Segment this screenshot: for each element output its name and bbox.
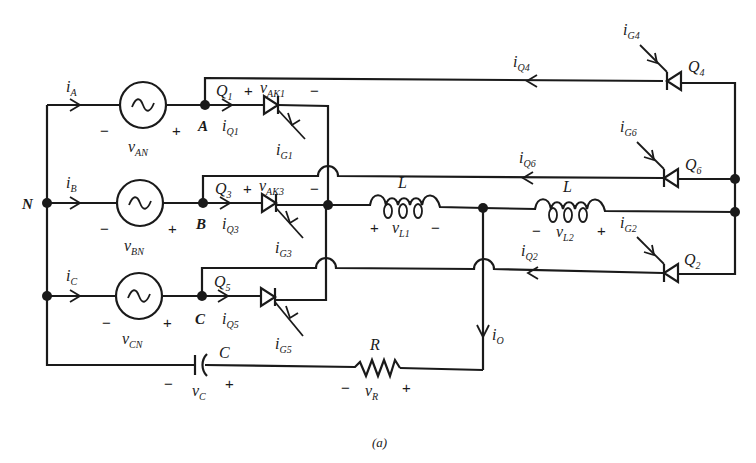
thyristor-Q5-label: Q5 — [214, 273, 231, 293]
capacitor-C-label: C — [219, 344, 230, 361]
node-A-label: A — [197, 118, 208, 134]
source-vBN-minus: − — [100, 220, 109, 237]
source-vAN — [120, 82, 204, 128]
vAK3-plus: + — [243, 180, 252, 197]
gate-lead — [640, 45, 667, 72]
thyristor-Q5 — [202, 205, 326, 336]
gate-current-iG3-label: iG3 — [275, 239, 292, 259]
source-vCN — [116, 273, 202, 319]
resistor-minus: − — [341, 379, 350, 396]
source-vAN-label: vAN — [128, 138, 149, 158]
vAK1-plus: + — [244, 82, 253, 99]
gate-lead — [637, 237, 664, 264]
inductor-L2-voltage: vL2 — [556, 223, 574, 243]
inductor-L2 — [483, 199, 735, 222]
current-iQ6-label: iQ6 — [519, 149, 536, 169]
gate-lead — [275, 302, 303, 336]
source-vAN-minus: − — [100, 122, 109, 139]
phase-current-arrows — [70, 99, 80, 302]
thyristor-Q1-label: Q1 — [216, 82, 233, 102]
resistor-plus: + — [402, 379, 411, 396]
inductor-L1-minus: − — [431, 219, 440, 236]
capacitor-voltage: vC — [192, 382, 206, 402]
current-iQ3-label: iQ3 — [222, 215, 239, 235]
capacitor-minus: − — [164, 375, 173, 392]
gate-current-iG1-label: iG1 — [276, 141, 293, 161]
output-branch — [195, 208, 489, 376]
wire-Q2-return — [202, 258, 663, 296]
vAK3-minus: − — [310, 180, 319, 197]
source-vCN-plus: + — [163, 314, 172, 331]
thyristor-Q6-label: Q6 — [685, 156, 702, 176]
resistor-R-label: R — [369, 336, 380, 353]
current-iA-label: iA — [66, 78, 77, 98]
node-C-label: C — [195, 311, 206, 327]
thyristor-Q3-label: Q3 — [215, 180, 232, 200]
sine-icon — [132, 99, 154, 111]
node-bottom-left-dot — [42, 291, 52, 301]
current-iC-label: iC — [66, 267, 77, 287]
inductor-L1-voltage: vL1 — [392, 219, 410, 239]
circuit-diagram: N iA iB iC − + vAN − + vBN − + vCN A B C — [0, 0, 756, 463]
sine-icon — [128, 290, 150, 302]
current-iQ1-label: iQ1 — [222, 117, 239, 137]
inductor-L1 — [328, 195, 484, 218]
source-vAN-plus: + — [172, 122, 181, 139]
source-vBN — [117, 180, 203, 226]
inductor-L2-minus: − — [532, 222, 541, 239]
wire-Q6-return — [203, 166, 663, 203]
thyristor-Q4-label: Q4 — [688, 58, 705, 78]
output-current-iO-label: iO — [492, 326, 504, 346]
gate-current-iG5-label: iG5 — [275, 335, 292, 355]
inductor-L2-label: L — [562, 178, 572, 195]
node-N-label: N — [21, 196, 34, 212]
inductor-L1-label: L — [397, 174, 407, 191]
source-vCN-label: vCN — [122, 330, 144, 350]
inductor-L2-plus: + — [597, 222, 606, 239]
anode-junction-dot-upper — [730, 174, 740, 184]
gate-lead — [637, 142, 664, 169]
figure-caption: (a) — [372, 435, 387, 450]
capacitor-plus: + — [225, 375, 234, 392]
inductor-L1-plus: + — [370, 219, 379, 236]
vAK1-minus: − — [310, 82, 319, 99]
gate-current-iG6-label: iG6 — [620, 118, 637, 138]
current-iQ5-label: iQ5 — [222, 310, 239, 330]
node-N-dot — [42, 198, 52, 208]
resistor-voltage: vR — [365, 382, 378, 402]
source-vBN-plus: + — [168, 220, 177, 237]
current-iQ4-label: iQ4 — [513, 53, 530, 73]
current-iQ2-label: iQ2 — [521, 242, 538, 262]
sine-icon — [129, 197, 151, 209]
gate-current-iG4-label: iG4 — [623, 21, 640, 41]
source-vCN-minus: − — [102, 314, 111, 331]
source-vBN-label: vBN — [124, 237, 145, 257]
current-iB-label: iB — [66, 174, 77, 194]
thyristor-Q2-label: Q2 — [684, 251, 701, 271]
node-B-label: B — [195, 216, 206, 232]
gate-current-iG2-label: iG2 — [620, 214, 637, 234]
